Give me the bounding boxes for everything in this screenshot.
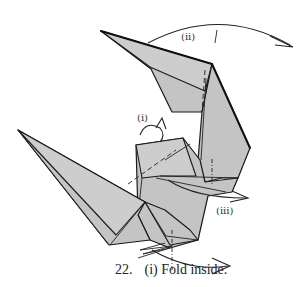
arrow-ii — [148, 24, 293, 47]
origami-diagram — [0, 0, 299, 287]
step-number: 22. — [115, 262, 133, 277]
left-wing — [18, 130, 150, 245]
right-flap — [198, 64, 250, 182]
label-i: (i) — [137, 113, 148, 123]
step-instruction: (i) Fold inside. — [145, 262, 228, 277]
upper-flap — [101, 31, 212, 112]
label-ii: (ii) — [181, 32, 195, 42]
step-caption: 22.(i) Fold inside. — [115, 262, 227, 278]
label-iii: (iii) — [216, 206, 233, 216]
